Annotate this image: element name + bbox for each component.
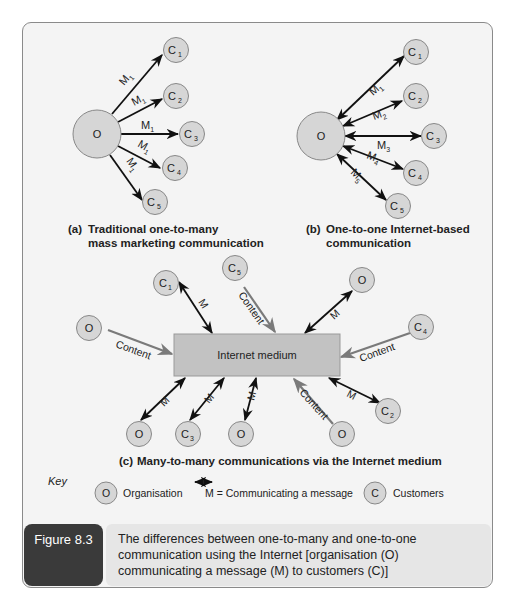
message-label: M xyxy=(244,390,258,402)
customer-node: C5 xyxy=(143,190,168,215)
svg-text:3: 3 xyxy=(190,435,194,442)
svg-text:O: O xyxy=(237,428,246,440)
svg-text:O: O xyxy=(135,428,144,440)
organisation-label: O xyxy=(93,128,102,140)
svg-text:C: C xyxy=(228,262,236,274)
caption-c: Many-to-many communications via the Inte… xyxy=(137,455,442,467)
svg-text:C: C xyxy=(426,130,434,142)
organisation-node: O xyxy=(350,268,375,293)
message-label: M1 xyxy=(123,155,142,174)
svg-text:C: C xyxy=(390,200,398,212)
customer-node: C3 xyxy=(422,124,447,149)
content-label: Content xyxy=(236,289,267,326)
svg-text:C: C xyxy=(147,196,155,208)
key-message-label: M = Communicating a message xyxy=(205,487,353,499)
message-label: M xyxy=(345,387,358,402)
svg-text:4: 4 xyxy=(177,169,181,176)
message-label: M4 xyxy=(365,149,382,167)
svg-text:2: 2 xyxy=(178,97,182,104)
figure-caption-box: The differences between one-to-many and … xyxy=(106,524,491,586)
svg-text:C: C xyxy=(381,405,389,417)
key-customer-label: Customers xyxy=(393,487,444,499)
svg-text:3: 3 xyxy=(194,135,198,142)
svg-text:4: 4 xyxy=(418,174,422,181)
svg-text:2: 2 xyxy=(390,412,394,419)
customer-node: C2 xyxy=(164,84,189,109)
organisation-node: O xyxy=(127,422,152,447)
message-label: M5 xyxy=(347,166,366,185)
svg-text:C: C xyxy=(168,90,176,102)
svg-text:4: 4 xyxy=(423,328,427,335)
svg-text:1: 1 xyxy=(168,284,172,291)
organisation-node: O xyxy=(229,422,254,447)
svg-text:5: 5 xyxy=(237,269,241,276)
message-label: M xyxy=(327,307,342,322)
svg-text:O: O xyxy=(338,428,347,440)
svg-text:3: 3 xyxy=(436,137,440,144)
svg-text:O: O xyxy=(358,274,367,286)
caption-a-line2: mass marketing communication xyxy=(88,237,264,249)
diagram-c: Internet medium C1 C5 O O C4 O C3 O C2 O… xyxy=(77,256,442,468)
internet-medium-label: Internet medium xyxy=(217,349,296,361)
customer-node: C2 xyxy=(404,84,429,109)
svg-text:C: C xyxy=(408,167,416,179)
diagram-b: O C1 C2 C3 C4 C5 M1 M2 M3 M4 M5 (b) One-… xyxy=(297,40,470,250)
svg-text:C: C xyxy=(414,321,422,333)
caption-b-line1: One-to-one Internet-based xyxy=(326,223,470,235)
customer-node: C3 xyxy=(180,122,205,147)
message-label: M1 xyxy=(129,91,147,110)
customer-node-c1: C1 xyxy=(154,271,179,296)
customer-node-c4: C4 xyxy=(409,315,434,340)
svg-text:C: C xyxy=(408,46,416,58)
message-label: M xyxy=(157,394,172,409)
customer-node: C1 xyxy=(404,40,429,65)
customer-node: C1 xyxy=(164,38,189,63)
svg-text:1: 1 xyxy=(178,51,182,58)
customer-node-c5: C5 xyxy=(223,256,248,281)
message-label: M1 xyxy=(116,69,135,88)
customer-node: C4 xyxy=(404,161,429,186)
key-customer-symbol: C xyxy=(371,487,379,499)
diagram-a: O C1 C2 C3 C4 C5 M1 M1 M1 M1 M1 (a) Trad… xyxy=(68,38,264,250)
key-title: Key xyxy=(48,475,68,487)
figure-label: Figure 8.3 xyxy=(24,532,103,547)
content-label: Content xyxy=(298,386,332,421)
caption-c-prefix: (c) xyxy=(119,455,133,467)
organisation-node: O xyxy=(330,422,355,447)
communication-diagram: O C1 C2 C3 C4 C5 M1 M1 M1 M1 M1 (a) Trad… xyxy=(0,0,515,608)
svg-text:C: C xyxy=(159,277,167,289)
organisation-label: O xyxy=(317,130,326,142)
customer-node: C4 xyxy=(163,156,188,181)
svg-text:O: O xyxy=(85,322,94,334)
svg-text:C: C xyxy=(181,428,189,440)
message-label: M xyxy=(196,297,211,311)
customer-node-c3: C3 xyxy=(176,422,201,447)
caption-a-line1: Traditional one-to-many xyxy=(88,223,219,235)
svg-text:2: 2 xyxy=(418,97,422,104)
caption-b-prefix: (b) xyxy=(306,223,321,235)
svg-text:C: C xyxy=(408,90,416,102)
key-legend: Key O Organisation M = Communicating a m… xyxy=(48,475,444,504)
figure-caption: The differences between one-to-many and … xyxy=(118,531,483,579)
figure-label-box: Figure 8.3 xyxy=(24,524,103,586)
svg-text:C: C xyxy=(184,128,192,140)
svg-text:C: C xyxy=(167,162,175,174)
message-label: M1 xyxy=(135,137,153,156)
caption-a-prefix: (a) xyxy=(68,223,82,235)
customer-node-c2: C2 xyxy=(376,399,401,424)
svg-text:C: C xyxy=(168,44,176,56)
svg-text:5: 5 xyxy=(157,203,161,210)
svg-text:1: 1 xyxy=(418,53,422,60)
content-label: Content xyxy=(114,338,153,362)
svg-text:5: 5 xyxy=(400,207,404,214)
key-organisation-symbol: O xyxy=(102,487,110,499)
message-label: M3 xyxy=(377,139,390,153)
customer-node: C5 xyxy=(386,194,411,219)
message-arrow xyxy=(179,282,212,333)
organisation-node: O xyxy=(77,316,102,341)
message-label: M1 xyxy=(141,119,154,133)
key-organisation-label: Organisation xyxy=(123,487,183,499)
caption-b-line2: communication xyxy=(326,237,411,249)
